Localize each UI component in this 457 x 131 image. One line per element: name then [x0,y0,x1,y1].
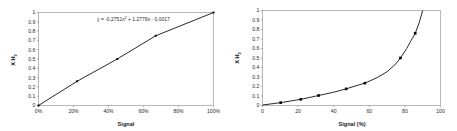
x-tick-label: 0% [35,108,43,114]
x-tick-label: 20% [68,108,79,114]
data-point-marker [317,94,320,97]
x-tick-label: 100% [207,108,220,114]
x-tick-label: 20 [295,108,301,114]
y-tick-label: 0.3 [28,75,35,81]
left-x-axis-title: Signal [118,121,135,127]
y-tick-label: 0.5 [28,56,35,62]
equation-part-2: + 1.2779x - 0.0017 [127,16,170,22]
chart-panel-right: 00.10.20.30.40.50.60.70.80.91 0204060801… [228,0,457,131]
y-tick-label: 0.1 [252,93,259,99]
y-tick-label: 0.2 [252,83,259,89]
data-point-marker [213,12,215,14]
right-y-axis-ticks: 00.10.20.30.40.50.60.70.80.91 [252,7,262,108]
y-tick-label: 0.1 [28,93,35,99]
left-equation-annotation: y = -0.2751x2 + 1.2779x - 0.0017 [97,16,170,22]
data-point-marker [76,80,78,82]
left-y-axis-title-subscript: 2 [13,53,18,56]
x-tick-label: 100 [436,108,445,114]
y-tick-label: 0.9 [28,19,35,25]
y-tick-label: 1 [256,7,259,13]
data-point-marker [345,88,348,91]
data-point-marker [279,101,282,104]
y-tick-label: 0.8 [28,28,35,34]
left-chart-svg: 00.10.20.30.40.50.60.70.80.91 0%20%40%60… [0,0,229,131]
data-point-marker [155,35,157,37]
left-series-markers [38,12,215,107]
y-tick-label: 0.2 [28,84,35,90]
x-tick-label: 80 [402,108,408,114]
data-point-marker [414,32,417,35]
y-tick-label: 0.3 [252,74,259,80]
y-tick-label: 0.8 [252,26,259,32]
x-tick-label: 0 [261,108,264,114]
chart-panel-left: 00.10.20.30.40.50.60.70.80.91 0%20%40%60… [0,0,229,131]
right-y-axis-title-main: X H [234,54,240,63]
right-y-axis-title: X H2 [234,51,242,63]
right-plot-frame [263,11,441,106]
right-series-trendline [263,11,423,106]
x-tick-label: 40% [103,108,114,114]
right-x-axis-ticks: 020406080100 [261,106,445,115]
data-point-marker [116,58,118,60]
right-y-axis-title-subscript: 2 [237,51,242,54]
x-tick-label: 60% [138,108,149,114]
y-tick-label: 0 [256,102,259,108]
left-y-axis-ticks: 00.10.20.30.40.50.60.70.80.91 [28,9,38,108]
x-tick-label: 80% [173,108,184,114]
equation-part-1: y = -0.2751x [97,16,125,22]
y-tick-label: 0.5 [252,55,259,61]
data-point-marker [38,105,40,107]
data-point-marker [364,82,367,85]
right-x-axis-title: Signal (%) [338,121,365,127]
left-series-trendline [39,13,214,106]
y-tick-label: 0.7 [28,37,35,43]
data-point-marker [399,57,402,60]
right-chart-svg: 00.10.20.30.40.50.60.70.80.91 0204060801… [228,0,457,131]
x-tick-label: 40 [331,108,337,114]
y-tick-label: 0.6 [28,47,35,53]
y-tick-label: 0.9 [252,17,259,23]
left-x-axis-ticks: 0%20%40%60%80%100% [35,106,221,115]
y-tick-label: 0.7 [252,36,259,42]
x-tick-label: 60 [366,108,372,114]
data-point-marker [299,98,302,101]
left-y-axis-title-main: X H [10,56,16,65]
right-series-markers [279,32,416,104]
figure-container: 00.10.20.30.40.50.60.70.80.91 0%20%40%60… [0,0,457,131]
left-y-axis-title: X H2 [10,53,18,65]
y-tick-label: 0.6 [252,45,259,51]
y-tick-label: 0.4 [28,65,35,71]
left-plot-frame [39,13,214,106]
y-tick-label: 0.4 [252,64,259,70]
y-tick-label: 1 [32,9,35,15]
